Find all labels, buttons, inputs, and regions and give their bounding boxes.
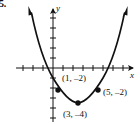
point-label-3-neg4: (3, –4) [63, 110, 87, 119]
point-marker-5-neg2 [95, 87, 100, 92]
figure-container: 5. [0, 0, 140, 124]
x-axis-label: x [130, 71, 134, 80]
point-label-1-neg2: (1, –2) [62, 74, 86, 83]
y-axis-label: y [56, 4, 60, 13]
coordinate-plane-graph [0, 0, 140, 124]
point-marker-3-neg4 [75, 100, 80, 105]
point-marker-1-neg2 [55, 87, 60, 92]
point-label-5-neg2: (5, –2) [103, 88, 127, 97]
x-axis [16, 65, 133, 71]
y-axis [50, 9, 56, 122]
